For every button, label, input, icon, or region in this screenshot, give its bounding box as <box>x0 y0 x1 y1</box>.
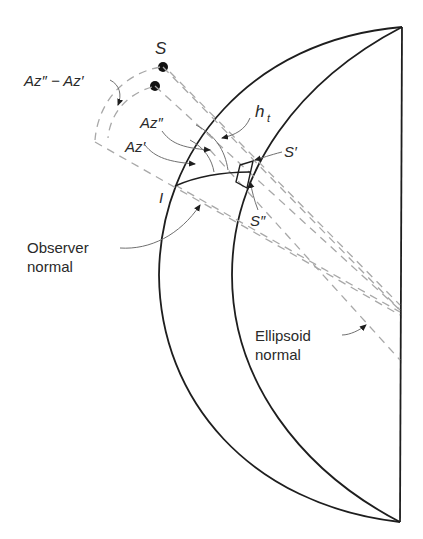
label-az-double: Az″ <box>139 114 164 131</box>
leader-az-diff <box>110 80 120 105</box>
dashed-line-s-observer <box>170 72 400 305</box>
label-observer-normal-line1: Observer <box>27 239 89 256</box>
leader-observer-normal <box>120 205 200 248</box>
label-height-subscript: t <box>267 112 271 124</box>
label-star: S <box>155 39 167 58</box>
label-s-prime: S′ <box>284 143 298 160</box>
label-az-single: Az′ <box>124 138 147 155</box>
dashed-line-horizon <box>175 185 400 312</box>
label-s-double: S″ <box>250 212 266 229</box>
outer-ellipsoid-arc <box>159 27 402 522</box>
polar-axis <box>400 27 402 522</box>
geodetic-diagram: S Az″ − Az′ Az″ Az′ h t S′ S″ I Observer… <box>0 0 423 539</box>
leader-ellipsoid-normal <box>342 325 366 335</box>
label-observer-normal-line2: normal <box>27 258 73 275</box>
observer-normal-line <box>95 142 400 315</box>
label-height: h <box>255 102 264 121</box>
leader-s-prime <box>255 152 282 160</box>
dashed-line-s-ellipsoid <box>163 67 400 310</box>
label-az-difference: Az″ − Az′ <box>23 72 85 89</box>
label-ellipsoid-normal-line2: normal <box>255 346 301 363</box>
label-ellipsoid-normal-line1: Ellipsoid <box>255 327 311 344</box>
angle-arc-az-single <box>190 140 214 172</box>
leader-ht <box>222 118 250 138</box>
label-observer-point: I <box>159 189 163 206</box>
dashed-line-projection <box>155 86 400 310</box>
